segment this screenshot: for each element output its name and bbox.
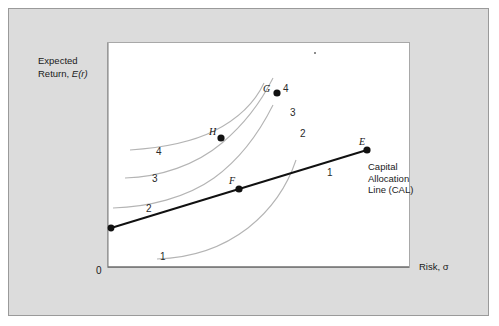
y-axis-label-line1: Expected — [38, 55, 78, 66]
curve-label-right-2: 2 — [300, 128, 306, 139]
risk-free-point — [108, 225, 115, 232]
point-label-F: F — [229, 175, 235, 186]
y-axis-label-symbol: E(r) — [72, 68, 88, 79]
point-label-G: G — [263, 83, 270, 94]
point-label-E: E — [359, 136, 365, 147]
origin-label: 0 — [96, 265, 102, 278]
figure-container: ExpectedReturn, E(r) Risk, σ 0 CapitalAl… — [0, 0, 499, 326]
point-E-marker — [363, 146, 370, 153]
curve-label-left-4: 4 — [156, 146, 162, 157]
point-F-marker — [235, 185, 242, 192]
point-G-marker — [273, 89, 280, 96]
y-axis-label-line2: Return, — [38, 68, 72, 79]
chart-graphics — [0, 0, 499, 326]
curve-label-left-3: 3 — [152, 173, 158, 184]
curve-label-right-3: 3 — [290, 107, 296, 118]
y-axis-label: ExpectedReturn, E(r) — [38, 55, 108, 80]
point-label-H: H — [209, 126, 216, 137]
indifference-curve-3 — [125, 78, 273, 178]
indifference-curve-2 — [113, 105, 273, 208]
cal-caption-line1: Capital — [368, 161, 398, 172]
curve-label-right-4: 4 — [283, 83, 289, 94]
x-axis-label: Risk, σ — [419, 261, 449, 274]
indifference-curve-1 — [157, 160, 296, 259]
cal-caption-line2: Allocation — [368, 173, 409, 184]
curve-label-left-1: 1 — [160, 251, 166, 262]
point-H-marker — [217, 134, 224, 141]
curve-label-left-2: 2 — [146, 203, 152, 214]
cal-caption-line3: Line (CAL) — [368, 184, 413, 195]
curve-label-right-1: 1 — [327, 167, 333, 178]
cal-caption: CapitalAllocationLine (CAL) — [368, 161, 413, 196]
indifference-curve-4 — [130, 83, 264, 150]
